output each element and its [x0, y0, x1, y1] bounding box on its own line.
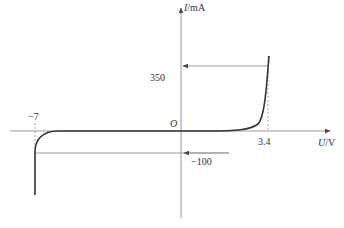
origin-label: O	[170, 118, 177, 129]
label-3.4: 3.4	[258, 136, 271, 147]
iv-curve-diagram	[0, 0, 344, 228]
label-350: 350	[150, 72, 165, 83]
label-minus7: −7	[28, 111, 39, 122]
y-axis-label: I/mA	[184, 2, 205, 13]
x-axis-label: U/V	[318, 137, 335, 148]
label-minus100: −100	[191, 156, 212, 167]
